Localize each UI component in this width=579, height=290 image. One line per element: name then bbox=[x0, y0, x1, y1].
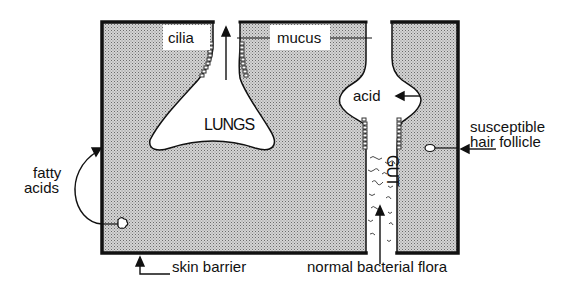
label-mucus: mucus bbox=[277, 29, 321, 46]
label-normal-flora: normal bacterial flora bbox=[307, 258, 448, 275]
label-cilia: cilia bbox=[168, 29, 194, 46]
tissue-right-block bbox=[392, 22, 458, 253]
label-hair-follicle: hair follicle bbox=[470, 133, 541, 150]
label-acids: acids bbox=[24, 179, 59, 196]
label-skin-barrier: skin barrier bbox=[172, 258, 246, 275]
fatty-acids-arrow bbox=[75, 151, 102, 224]
skin-barrier-arrow bbox=[140, 262, 170, 274]
body-defenses-diagram: cilia mucus LUNGS acid GUT susceptible h… bbox=[0, 0, 579, 290]
body-tissue bbox=[102, 22, 458, 253]
label-lungs: LUNGS bbox=[204, 116, 254, 133]
tissue-left-block bbox=[102, 22, 366, 253]
gut-lining bbox=[362, 118, 401, 149]
label-acid: acid bbox=[353, 87, 381, 104]
label-gut: GUT bbox=[384, 155, 401, 187]
